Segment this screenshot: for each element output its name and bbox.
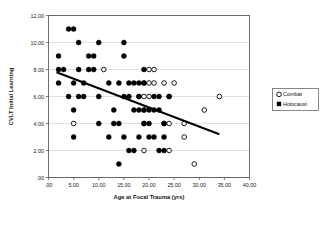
data-point-holocaust [131,108,136,113]
x-tick-label: 35.00 [218,182,232,188]
x-tick-label: .00 [45,182,53,188]
x-tick-label: 5.00 [68,182,79,188]
y-tick-label: 4.00 [34,121,45,127]
data-point-combat [71,121,76,126]
data-point-holocaust [116,162,121,167]
data-point-holocaust [66,94,71,99]
scatter-plot-figure: .005.0010.0015.0020.0025.0030.0035.0040.… [0,0,331,226]
data-point-holocaust [76,67,81,72]
data-point-combat [172,81,177,86]
data-point-combat [182,135,187,140]
data-point-holocaust [162,148,167,153]
data-point-holocaust [136,94,141,99]
x-axis-tick-labels: .005.0010.0015.0020.0025.0030.0035.0040.… [45,182,257,188]
data-point-holocaust [167,94,172,99]
data-point-holocaust [126,81,131,86]
data-point-holocaust [76,94,81,99]
data-point-holocaust [157,148,162,153]
legend-label-combat: Combat [283,91,302,97]
data-point-holocaust [162,135,167,140]
data-point-holocaust [136,81,141,86]
data-point-holocaust [111,108,116,113]
legend: CombatHolocaust [273,89,319,111]
data-point-combat [147,81,152,86]
data-point-holocaust [71,81,76,86]
legend-marker-combat [277,92,282,97]
y-tick-label: .00 [37,175,45,181]
x-tick-label: 30.00 [193,182,207,188]
data-point-holocaust [162,121,167,126]
y-tick-label: 2.00 [34,148,45,154]
data-point-combat [101,67,106,72]
data-point-holocaust [86,54,91,59]
data-point-combat [152,67,157,72]
data-point-holocaust [106,135,111,140]
data-point-holocaust [152,94,157,99]
data-point-holocaust [147,135,152,140]
data-point-holocaust [76,40,81,45]
data-point-holocaust [131,148,136,153]
data-point-combat [192,162,197,167]
data-point-holocaust [96,40,101,45]
y-tick-label: 6.00 [34,94,45,100]
y-tick-label: 12.00 [31,13,45,19]
x-tick-label: 15.00 [117,182,131,188]
data-point-holocaust [71,108,76,113]
data-point-combat [162,81,167,86]
data-point-holocaust [131,81,136,86]
y-tick-label: 10.00 [31,40,45,46]
data-point-holocaust [136,108,141,113]
data-point-holocaust [66,27,71,32]
data-point-holocaust [91,67,96,72]
data-point-holocaust [141,67,146,72]
data-point-holocaust [136,135,141,140]
data-point-holocaust [61,67,66,72]
data-point-holocaust [121,54,126,59]
data-point-combat [152,81,157,86]
data-point-holocaust [86,67,91,72]
data-point-holocaust [141,108,146,113]
data-point-holocaust [81,94,86,99]
data-point-holocaust [116,121,121,126]
data-point-holocaust [91,54,96,59]
data-point-holocaust [111,121,116,126]
data-point-combat [147,94,152,99]
legend-label-holocaust: Holocaust [283,101,307,107]
x-tick-label: 25.00 [167,182,181,188]
data-point-holocaust [96,121,101,126]
x-tick-label: 20.00 [142,182,156,188]
data-point-holocaust [56,67,61,72]
data-point-combat [167,148,172,153]
data-point-holocaust [157,94,162,99]
data-point-holocaust [116,81,121,86]
y-tick-label: 8.00 [34,67,45,73]
data-point-holocaust [71,135,76,140]
y-axis-title: CVLT Initial Learning [8,67,14,125]
legend-marker-holocaust [277,102,281,106]
data-point-combat [202,108,207,113]
x-tick-label: 40.00 [243,182,257,188]
data-point-holocaust [141,121,146,126]
data-point-holocaust [71,27,76,32]
data-point-holocaust [56,54,61,59]
data-point-holocaust [126,148,131,153]
data-point-holocaust [96,94,101,99]
x-axis-title: Age at Focal Trauma (yrs) [114,194,185,200]
data-point-holocaust [121,40,126,45]
data-point-holocaust [141,81,146,86]
data-point-holocaust [147,121,152,126]
data-point-combat [142,148,147,153]
data-point-combat [217,94,222,99]
data-point-combat [167,121,172,126]
data-point-holocaust [56,81,61,86]
data-point-holocaust [106,81,111,86]
data-point-combat [147,67,152,72]
data-point-holocaust [152,135,157,140]
data-point-holocaust [121,135,126,140]
data-point-combat [142,94,147,99]
x-tick-label: 10.00 [92,182,106,188]
